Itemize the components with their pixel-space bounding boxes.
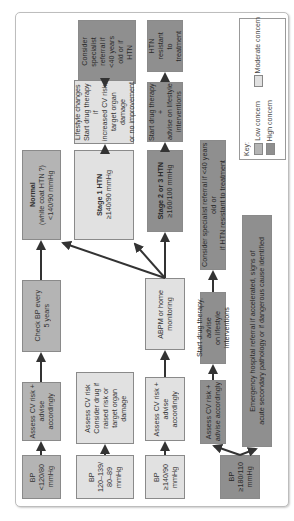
- legend-label-high: High concern: [266, 100, 273, 141]
- legend-title: Key:: [243, 142, 250, 156]
- legend-swatch-moderate: [254, 75, 263, 87]
- legend: Key: Low concern High concern Moderate c…: [239, 18, 286, 160]
- legend-label-moderate: Moderate concern: [254, 17, 261, 73]
- legend-label-low: Low concern: [254, 101, 261, 141]
- legend-swatch-low: [254, 143, 263, 155]
- legend-swatch-high: [266, 143, 275, 155]
